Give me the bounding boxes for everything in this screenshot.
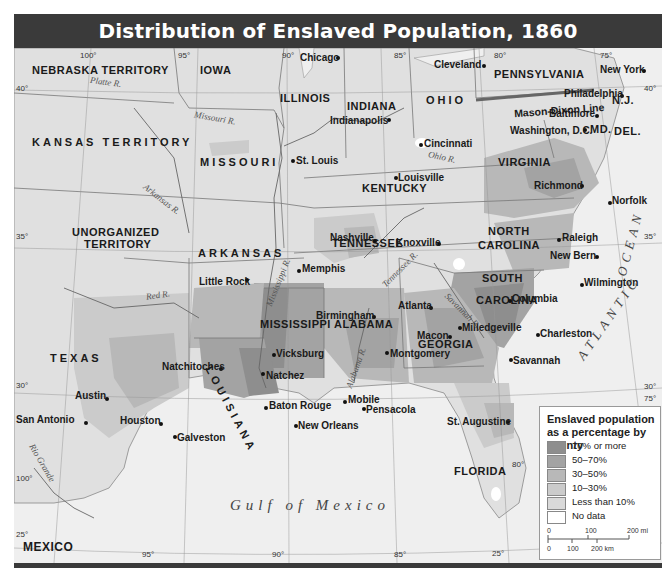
city-label-san-antonio: San Antonio	[16, 414, 75, 425]
state-label-south-carolina-1: SOUTH	[482, 272, 523, 284]
legend-swatch	[547, 469, 566, 482]
map-frame: Distribution of Enslaved Population, 186…	[14, 14, 662, 568]
city-label-natchitoches: Natchitoches	[162, 361, 225, 372]
state-label-illinois: ILLINOIS	[280, 92, 330, 104]
city-dot-natchez	[261, 372, 265, 376]
city-label-philadelphia: Philadelphia	[564, 88, 623, 99]
city-label-new-bern: New Bern	[550, 250, 596, 261]
city-label-pensacola: Pensacola	[366, 404, 415, 415]
city-label-st-augustine: St. Augustine	[447, 416, 511, 427]
state-label-north-carolina-1: NORTH	[488, 225, 530, 237]
city-label-new-orleans: New Orleans	[298, 420, 359, 431]
city-label-raleigh: Raleigh	[562, 232, 598, 243]
lon-label-95-bottom: 95°	[142, 550, 154, 559]
state-label-md: MD.	[590, 123, 612, 135]
state-label-kentucky: KENTUCKY	[362, 182, 427, 194]
legend: Enslaved population as a percentage by c…	[539, 406, 661, 560]
state-label-iowa: IOWA	[200, 64, 231, 76]
state-label-kansas: KANSAS TERRITORY	[32, 136, 192, 148]
city-dot-cleveland	[482, 64, 486, 68]
bottom-border	[14, 563, 662, 568]
state-label-ohio: OHIO	[426, 94, 466, 106]
lon-label-100: 100°	[80, 51, 97, 60]
legend-swatch	[547, 483, 566, 496]
state-label-pennsylvania: PENNSYLVANIA	[494, 68, 585, 80]
state-label-north-carolina-2: CAROLINA	[478, 239, 540, 251]
lat-label-30-left: 30°	[16, 381, 28, 390]
city-label-atlanta: Atlanta	[398, 300, 432, 311]
city-label-nashville: Nashville	[330, 232, 374, 243]
city-dot-cincinnati	[419, 143, 423, 147]
state-label-del: DEL.	[614, 125, 641, 137]
city-label-chicago: Chicago	[300, 52, 339, 63]
city-dot-mobile	[343, 400, 347, 404]
state-label-unorganized-1: UNORGANIZED	[72, 226, 159, 238]
state-label-nebraska: NEBRASKA TERRITORY	[32, 64, 169, 76]
city-label-savannah: Savannah	[513, 355, 560, 366]
lat-label-35-left: 35°	[16, 232, 28, 241]
city-label-montgomery: Montgomery	[390, 348, 450, 359]
city-label-birmingham: Birmingham	[316, 310, 374, 321]
city-dot-st-louis	[291, 159, 295, 163]
city-dot-montgomery	[385, 351, 389, 355]
city-label-cincinnati: Cincinnati	[424, 138, 472, 149]
city-label-st-louis: St. Louis	[296, 155, 338, 166]
lon-label-85: 85°	[394, 51, 406, 60]
city-dot-baltimore	[595, 114, 599, 118]
city-label-macon: Macon	[417, 330, 449, 341]
city-label-little-rock: Little Rock	[199, 276, 250, 287]
city-label-galveston: Galveston	[177, 432, 225, 443]
city-label-austin: Austin	[75, 390, 106, 401]
lon-label-80: 80°	[494, 51, 506, 60]
city-label-cleveland: Cleveland	[434, 59, 481, 70]
lon-label-90-bottom: 90°	[272, 550, 284, 559]
lat-label-30-right: 30°	[644, 382, 656, 391]
state-label-missouri: MISSOURI	[200, 156, 278, 168]
city-label-knoxville: Knoxville	[396, 237, 440, 248]
lon-label-75-right: 75°	[644, 394, 656, 403]
city-dot-san-antonio	[84, 421, 88, 425]
city-label-natchez: Natchez	[266, 370, 304, 381]
gulf-label: Gulf of Mexico	[230, 497, 390, 514]
city-label-vicksburg: Vicksburg	[276, 348, 324, 359]
city-label-washington: Washington, D.C.	[510, 125, 592, 136]
state-label-florida: FLORIDA	[454, 465, 506, 477]
state-label-unorganized-2: TERRITORY	[84, 238, 151, 250]
legend-swatch	[547, 455, 566, 468]
scale-bar: 0 100 200 mi 0 100 200 km	[547, 527, 655, 557]
city-dot-raleigh	[557, 238, 561, 242]
city-label-houston: Houston	[120, 415, 161, 426]
state-label-arkansas: ARKANSAS	[198, 247, 284, 259]
lon-label-95: 95°	[178, 51, 190, 60]
state-label-virginia: VIRGINIA	[498, 156, 551, 168]
city-label-baton-rouge: Baton Rouge	[269, 400, 331, 411]
city-label-new-york: New York	[600, 64, 645, 75]
lon-label-85-bottom: 85°	[394, 550, 406, 559]
lon-label-75: 75°	[600, 51, 612, 60]
city-label-indianapolis: Indianapolis	[330, 115, 388, 126]
city-label-columbia: Columbia	[512, 293, 558, 304]
state-label-indiana: INDIANA	[347, 100, 396, 112]
city-label-norfolk: Norfolk	[612, 195, 647, 206]
lat-label-25-left: 25°	[16, 530, 28, 539]
lon-label-80-fl: 80°	[512, 460, 524, 469]
lat-label-35-right: 35°	[644, 232, 656, 241]
legend-swatch	[547, 441, 566, 454]
state-label-texas: TEXAS	[50, 352, 102, 364]
lon-label-100-low: 100°	[16, 474, 33, 483]
lat-label-40-left: 40°	[16, 84, 28, 93]
lat-label-40-right: 40°	[644, 84, 656, 93]
lon-label-90: 90°	[282, 51, 294, 60]
city-dot-memphis	[297, 269, 301, 273]
city-label-louisville: Louisville	[398, 172, 444, 183]
legend-swatch	[547, 511, 566, 524]
map-title: Distribution of Enslaved Population, 186…	[14, 14, 662, 48]
city-label-memphis: Memphis	[302, 263, 345, 274]
city-label-richmond: Richmond	[534, 180, 583, 191]
state-label-mexico: MEXICO	[23, 540, 73, 554]
city-dot-baton-rouge	[264, 406, 268, 410]
lat-label-25-fl: 25°	[492, 549, 504, 558]
legend-swatch	[547, 497, 566, 510]
